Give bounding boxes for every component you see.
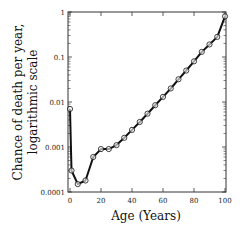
data-point-marker bbox=[67, 106, 72, 111]
data-point-marker bbox=[83, 178, 88, 183]
plot-frame bbox=[68, 12, 226, 192]
y-axis-title: Chance of death per year, logarithmic sc… bbox=[11, 24, 40, 181]
data-point-marker bbox=[191, 59, 196, 64]
data-point-marker bbox=[114, 143, 119, 148]
data-point-marker bbox=[137, 119, 142, 124]
data-point-marker bbox=[69, 168, 74, 173]
mortality-chart: Chance of death per year, logarithmic sc… bbox=[0, 0, 245, 232]
data-point-marker bbox=[145, 111, 150, 116]
data-point-marker bbox=[129, 127, 134, 132]
x-tick-label: 20 bbox=[97, 197, 106, 205]
data-point-marker bbox=[222, 14, 227, 19]
data-point-marker bbox=[215, 34, 220, 39]
y-axis-title-line-1: Chance of death per year, bbox=[11, 24, 25, 181]
x-tick-label: 40 bbox=[128, 197, 137, 205]
x-tick-label: 80 bbox=[190, 197, 199, 205]
x-axis-ticks: 020406080100 bbox=[68, 12, 232, 205]
data-point-marker bbox=[160, 94, 165, 99]
data-point-marker bbox=[176, 77, 181, 82]
x-tick-label: 60 bbox=[159, 197, 168, 205]
y-axis-title-line-2: logarithmic scale bbox=[26, 50, 40, 155]
data-point-marker bbox=[106, 146, 111, 151]
x-axis-title: Age (Years) bbox=[110, 209, 181, 223]
data-point-marker bbox=[184, 68, 189, 73]
data-series bbox=[67, 14, 227, 187]
x-tick-label: 0 bbox=[68, 197, 72, 205]
y-tick-label: 0.01 bbox=[49, 99, 65, 107]
data-point-marker bbox=[168, 86, 173, 91]
data-point-marker bbox=[153, 103, 158, 108]
x-tick-label: 100 bbox=[218, 197, 231, 205]
data-point-marker bbox=[207, 42, 212, 47]
y-tick-label: 0.0001 bbox=[41, 189, 66, 197]
y-tick-label: 0.1 bbox=[54, 54, 65, 62]
y-tick-label: 0.001 bbox=[45, 144, 65, 152]
data-point-marker bbox=[199, 49, 204, 54]
data-point-marker bbox=[122, 135, 127, 140]
data-point-marker bbox=[75, 181, 80, 186]
plot-border bbox=[68, 12, 226, 192]
data-point-marker bbox=[91, 154, 96, 159]
data-point-marker bbox=[98, 146, 103, 151]
y-tick-label: 1 bbox=[61, 9, 65, 17]
